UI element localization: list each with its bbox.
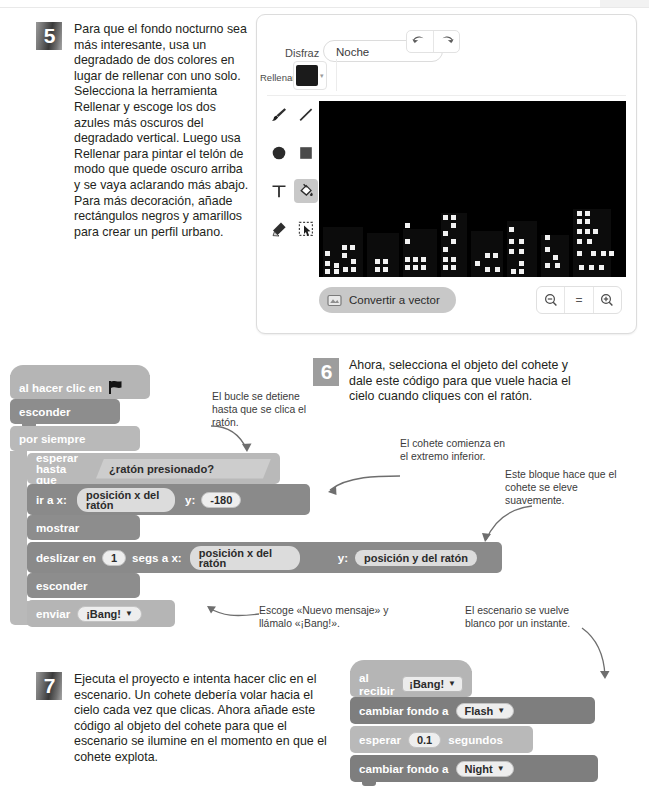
step-5-text: Para que el fondo nocturno sea más inter… bbox=[74, 22, 252, 240]
when-flag-clicked-block[interactable]: al hacer clic en bbox=[10, 375, 150, 399]
forever-left-arm bbox=[10, 451, 27, 601]
wait-label-a: esperar bbox=[359, 733, 401, 746]
toolbar-divider bbox=[336, 59, 337, 91]
annotation-rocket-start-arrow bbox=[308, 466, 408, 506]
chevron-down-icon: ▼ bbox=[448, 678, 456, 690]
page-top-corner-block bbox=[600, 0, 649, 7]
glide-y-label: y: bbox=[338, 551, 348, 564]
undo-arrow-icon[interactable] bbox=[407, 31, 433, 52]
glide-mouse-y-reporter[interactable]: posición y del ratón bbox=[355, 550, 477, 566]
zoom-reset-button[interactable]: = bbox=[565, 287, 592, 313]
chevron-down-icon: ▼ bbox=[497, 705, 505, 717]
chevron-down-icon: ▾ bbox=[320, 72, 324, 80]
toolbar-bottom-rule bbox=[267, 95, 626, 96]
text-tool[interactable] bbox=[267, 179, 291, 203]
step-6-text: Ahora, selecciona el objeto del cohete y… bbox=[349, 358, 579, 405]
broadcast-label: enviar bbox=[36, 607, 70, 620]
broadcast-message-dropdown[interactable]: ¡Bang!▼ bbox=[77, 606, 142, 622]
costume-label: Disfraz bbox=[285, 47, 319, 59]
backdrop-dropdown-flash[interactable]: Flash▼ bbox=[456, 703, 515, 719]
glide-secs-input[interactable]: 1 bbox=[102, 550, 126, 566]
switch-backdrop-block-2[interactable]: cambiar fondo a Night▼ bbox=[350, 755, 598, 782]
step-6-badge: 6 bbox=[313, 358, 339, 386]
chevron-down-icon: ▼ bbox=[125, 608, 133, 620]
page-root: 5 Para que el fondo nocturno sea más int… bbox=[0, 0, 649, 791]
wait-label-b: segundos bbox=[448, 733, 503, 746]
show-block[interactable]: mostrar bbox=[27, 515, 140, 540]
when-receive-message-dropdown[interactable]: ¡Bang!▼ bbox=[402, 676, 463, 692]
annotation-stage-white: El escenario se vuelve blanco por un ins… bbox=[465, 604, 587, 630]
switch-backdrop-label-2: cambiar fondo a bbox=[359, 762, 449, 775]
when-flag-clicked-label: al hacer clic en bbox=[19, 381, 102, 394]
convert-to-vector-button[interactable]: Convertir a vector bbox=[319, 287, 456, 313]
hide-block-1[interactable]: esconder bbox=[10, 399, 120, 424]
hide-block-2[interactable]: esconder bbox=[27, 573, 140, 598]
glide-label-a: deslizar en bbox=[36, 551, 96, 564]
paint-canvas[interactable] bbox=[319, 101, 626, 277]
switch-backdrop-2-notch bbox=[362, 782, 376, 786]
when-i-receive-block[interactable]: al recibir ¡Bang!▼ bbox=[350, 671, 472, 697]
rectangle-tool[interactable] bbox=[294, 141, 318, 165]
paint-editor-panel: Disfraz Noche Rellenar ▾ bbox=[256, 14, 637, 334]
annotation-loop-stops-arrow bbox=[195, 418, 315, 468]
chevron-down-icon: ▼ bbox=[497, 763, 505, 775]
line-tool[interactable] bbox=[294, 103, 318, 127]
wait-until-label: esperarhasta que bbox=[36, 452, 88, 485]
zoom-out-button[interactable] bbox=[537, 287, 564, 313]
backdrop-dropdown-night[interactable]: Night▼ bbox=[456, 761, 514, 777]
go-to-y-input[interactable]: -180 bbox=[201, 492, 241, 508]
redo-arrow-icon[interactable] bbox=[434, 31, 460, 52]
fill-label: Rellenar bbox=[260, 72, 295, 83]
vector-icon bbox=[327, 294, 342, 307]
switch-backdrop-label-1: cambiar fondo a bbox=[359, 704, 449, 717]
go-to-xy-block[interactable]: ir a x: posición x del ratón y: -180 bbox=[27, 484, 310, 515]
select-tool[interactable] bbox=[294, 217, 318, 241]
forever-block-header[interactable]: por siempre bbox=[10, 426, 140, 451]
circle-tool[interactable] bbox=[267, 141, 291, 165]
glide-block[interactable]: deslizar en 1 segs a x: posición x del r… bbox=[27, 542, 502, 573]
page-top-rule bbox=[0, 7, 649, 8]
forever-label: por siempre bbox=[19, 432, 85, 445]
annotation-rocket-start: El cohete comienza en el extremo inferio… bbox=[400, 437, 510, 463]
step-5-badge: 5 bbox=[36, 22, 62, 50]
when-receive-label: al recibir bbox=[359, 671, 396, 697]
go-to-label: ir a x: bbox=[36, 493, 67, 506]
switch-backdrop-block-1[interactable]: cambiar fondo a Flash▼ bbox=[350, 697, 595, 724]
broadcast-block[interactable]: enviar ¡Bang!▼ bbox=[27, 600, 175, 627]
fill-color-swatch[interactable]: ▾ bbox=[293, 61, 327, 90]
go-to-y-label: y: bbox=[185, 493, 195, 506]
annotation-smooth-rise-arrow bbox=[460, 498, 550, 558]
eraser-tool[interactable] bbox=[267, 217, 291, 241]
glide-mouse-x-reporter[interactable]: posición x del ratón bbox=[190, 546, 300, 570]
step-7-text: Ejecuta el proyecto e intenta hacer clic… bbox=[74, 672, 332, 766]
tool-palette bbox=[267, 101, 319, 253]
glide-label-b: segs a x: bbox=[132, 551, 182, 564]
hide-label-2: esconder bbox=[36, 579, 88, 592]
zoom-in-button[interactable] bbox=[594, 287, 621, 313]
zoom-controls: = bbox=[536, 286, 622, 314]
show-label: mostrar bbox=[36, 521, 79, 534]
fill-color-chip bbox=[296, 65, 318, 86]
annotation-new-message: Escoge «Nuevo mensaje» y llámalo «¡Bang!… bbox=[259, 604, 389, 630]
wait-seconds-block[interactable]: esperar 0.1 segundos bbox=[350, 726, 533, 753]
annotation-stage-white-arrow bbox=[570, 624, 630, 694]
mouse-x-reporter[interactable]: posición x del ratón bbox=[77, 488, 175, 512]
convert-to-vector-label: Convertir a vector bbox=[349, 294, 440, 306]
green-flag-icon bbox=[108, 380, 125, 395]
hide-label-1: esconder bbox=[19, 405, 71, 418]
fill-tool[interactable] bbox=[294, 179, 318, 203]
wait-seconds-input[interactable]: 0.1 bbox=[408, 732, 441, 748]
brush-tool[interactable] bbox=[267, 103, 291, 127]
step-7-badge: 7 bbox=[36, 672, 62, 700]
annotation-new-message-arrow bbox=[175, 598, 270, 633]
undo-redo-group bbox=[406, 30, 460, 53]
